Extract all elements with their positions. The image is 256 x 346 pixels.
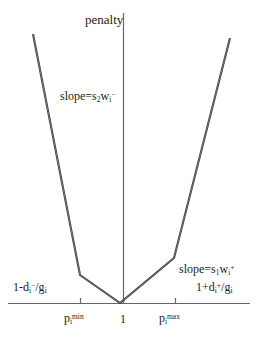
x-tick-label-one: 1 bbox=[120, 313, 126, 325]
range-left-prefix: 1-d bbox=[13, 280, 29, 294]
range-annotation-right: 1+di+/gi bbox=[196, 281, 232, 295]
x-tick-label-pmax: pimax bbox=[159, 312, 180, 326]
range-right-sub2: i bbox=[230, 286, 232, 295]
range-left-mid: /g bbox=[35, 280, 44, 294]
slope-left-var2-sup: − bbox=[111, 90, 115, 99]
slope-annotation-right: slope=s1wi+ bbox=[179, 263, 234, 277]
pmin-sup: min bbox=[72, 312, 84, 321]
range-right-mid: /g bbox=[221, 280, 230, 294]
range-annotation-left: 1-di−/gi bbox=[13, 281, 47, 295]
penalty-function-figure: penalty slope=s2wi− slope=s1wi+ 1-di−/gi… bbox=[0, 0, 256, 346]
x-tick-label-pmin: pimin bbox=[64, 312, 84, 326]
slope-right-var2-sup: + bbox=[230, 263, 234, 272]
pmax-sup: max bbox=[167, 312, 180, 321]
y-axis-title: penalty bbox=[85, 13, 123, 26]
slope-annotation-left: slope=s2wi− bbox=[60, 90, 115, 104]
slope-right-var2: w bbox=[220, 262, 229, 276]
slope-left-var2: w bbox=[101, 89, 110, 103]
range-left-sub2: i bbox=[45, 286, 47, 295]
slope-right-text: slope= bbox=[179, 262, 211, 276]
range-right-prefix: 1+d bbox=[196, 280, 215, 294]
slope-left-text: slope= bbox=[60, 89, 92, 103]
